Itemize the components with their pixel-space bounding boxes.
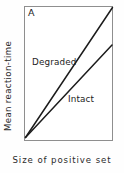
series-label-degraded: Degraded bbox=[32, 58, 77, 67]
panel-letter-label: A bbox=[28, 8, 35, 18]
x-axis-label-text: Size of positive set bbox=[0, 155, 124, 165]
plot-area bbox=[0, 0, 124, 173]
series-label-intact: Intact bbox=[68, 95, 94, 104]
figure-panel-a: Mean reaction-time A Degraded Intact Siz… bbox=[0, 0, 124, 173]
